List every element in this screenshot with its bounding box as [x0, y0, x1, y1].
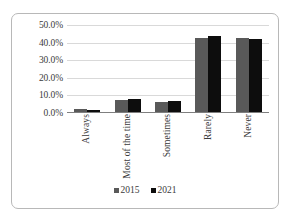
y-tick-label: 40.0% — [39, 38, 63, 48]
category-label-cell: Never — [229, 114, 269, 182]
legend-item-2015[interactable]: 2015 — [114, 186, 140, 196]
bar-2015 — [195, 38, 208, 112]
bar-group — [148, 25, 188, 112]
y-tick-label: 50.0% — [39, 20, 63, 30]
category-label: Never — [244, 114, 254, 138]
category-label: Most of the time — [123, 114, 133, 179]
bar-group — [188, 25, 228, 112]
chart-frame: 50.0%40.0%30.0%20.0%10.0%0.0% AlwaysMost… — [11, 13, 279, 209]
category-label: Sometimes — [163, 114, 173, 157]
legend-swatch-icon — [114, 188, 119, 193]
bar-group — [229, 25, 269, 112]
y-tick-label: 20.0% — [39, 73, 63, 83]
bar-2021 — [249, 39, 262, 112]
chart-legend: 20152021 — [12, 186, 278, 196]
bar-2021 — [87, 110, 100, 112]
bar-groups — [67, 25, 269, 112]
bar-2015 — [115, 100, 128, 112]
legend-swatch-icon — [151, 188, 156, 193]
bar-2021 — [208, 36, 221, 112]
category-label: Rarely — [204, 114, 214, 140]
chart-figure: 50.0%40.0%30.0%20.0%10.0%0.0% AlwaysMost… — [0, 0, 290, 221]
x-axis-line — [67, 112, 269, 113]
bar-2021 — [168, 101, 181, 112]
bar-2015 — [236, 38, 249, 112]
category-label-cell: Always — [67, 114, 107, 182]
category-label-cell: Rarely — [188, 114, 228, 182]
y-tick-label: 0.0% — [44, 108, 63, 118]
bar-group — [107, 25, 147, 112]
bar-group — [67, 25, 107, 112]
category-label-cell: Sometimes — [148, 114, 188, 182]
y-tick-label: 10.0% — [39, 90, 63, 100]
category-label: Always — [82, 114, 92, 144]
legend-item-2021[interactable]: 2021 — [151, 186, 177, 196]
bar-2021 — [128, 99, 141, 112]
legend-label: 2021 — [158, 186, 177, 196]
category-label-cell: Most of the time — [107, 114, 147, 182]
x-axis-category-labels: AlwaysMost of the timeSometimesRarelyNev… — [67, 114, 269, 182]
bar-2015 — [155, 102, 168, 112]
legend-label: 2015 — [121, 186, 140, 196]
bar-2015 — [74, 109, 87, 112]
plot-area: 50.0%40.0%30.0%20.0%10.0%0.0% — [67, 25, 269, 113]
y-tick-label: 30.0% — [39, 55, 63, 65]
